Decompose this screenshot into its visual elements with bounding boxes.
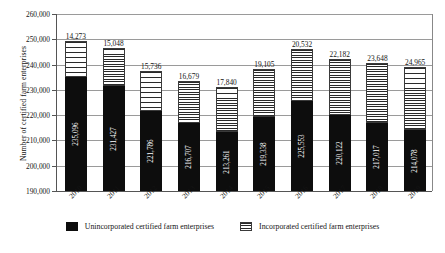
bar-segment-incorporated[interactable]: 15,048 — [103, 48, 125, 86]
legend-label-unincorporated: Unincorporated certified farm enterprise… — [85, 222, 214, 231]
legend-item-unincorporated[interactable]: Unincorporated certified farm enterprise… — [66, 222, 214, 231]
bar-group[interactable]: 23,648217,017 — [366, 63, 388, 191]
legend-label-incorporated: Incorporated certified farm enterprises — [259, 222, 379, 231]
y-tick-label: 210,000 — [26, 136, 57, 145]
bar-group[interactable]: 20,532225,553 — [291, 49, 313, 191]
bar-group[interactable]: 19,105219,338 — [253, 69, 275, 191]
bar-value-label-unincorporated: 217,017 — [373, 145, 381, 168]
bar-segment-unincorporated[interactable]: 231,427 — [103, 86, 125, 191]
bar-segment-unincorporated[interactable]: 221,786 — [140, 111, 162, 191]
bar-segment-unincorporated[interactable]: 225,553 — [291, 101, 313, 191]
bar-segment-unincorporated[interactable]: 219,338 — [253, 117, 275, 191]
y-tick-label: 260,000 — [26, 10, 57, 19]
hatched-square-icon — [240, 222, 252, 231]
bar-segment-unincorporated[interactable]: 216,707 — [178, 123, 200, 191]
bar-value-label-incorporated: 23,648 — [367, 54, 387, 63]
bar-value-label-incorporated: 20,532 — [292, 40, 312, 49]
y-tick-label: 190,000 — [26, 187, 57, 196]
bar-value-label-incorporated: 17,840 — [216, 78, 236, 87]
y-tick-label: 240,000 — [26, 60, 57, 69]
bar-value-label-unincorporated: 216,707 — [185, 146, 193, 169]
bar-group[interactable]: 16,679216,707 — [178, 81, 200, 191]
legend-item-incorporated[interactable]: Incorporated certified farm enterprises — [240, 222, 379, 231]
bar-value-label-incorporated: 19,105 — [254, 60, 274, 69]
bar-group[interactable]: 15,736221,786 — [140, 71, 162, 191]
bar-segment-incorporated[interactable]: 16,679 — [178, 81, 200, 123]
bar-value-label-unincorporated: 213,261 — [223, 150, 231, 173]
bar-value-label-incorporated: 15,048 — [103, 39, 123, 48]
bar-group[interactable]: 14,273235,096 — [65, 41, 87, 191]
y-tick-label: 250,000 — [26, 35, 57, 44]
bar-value-label-incorporated: 24,965 — [405, 58, 425, 67]
bar-series-layer: 14,273235,09615,048231,42715,736221,7861… — [57, 14, 432, 191]
bar-value-label-incorporated: 16,679 — [179, 72, 199, 81]
bar-value-label-unincorporated: 214,078 — [411, 149, 419, 172]
bar-value-label-unincorporated: 220,122 — [336, 141, 344, 164]
bar-value-label-incorporated: 15,736 — [141, 62, 161, 71]
bar-segment-incorporated[interactable]: 17,840 — [216, 87, 238, 132]
bar-group[interactable]: 24,965214,078 — [404, 67, 426, 191]
bar-segment-incorporated[interactable]: 15,736 — [140, 71, 162, 111]
bar-group[interactable]: 22,182220,122 — [329, 59, 351, 191]
bar-group[interactable]: 17,840213,261 — [216, 87, 238, 191]
y-tick-label: 220,000 — [26, 111, 57, 120]
stacked-bar-chart-figure: Number of certified farm enterprises 260… — [0, 0, 445, 253]
bar-segment-unincorporated[interactable]: 235,096 — [65, 77, 87, 191]
bar-value-label-incorporated: 22,182 — [330, 50, 350, 59]
y-tick-label: 200,000 — [26, 161, 57, 170]
bar-segment-incorporated[interactable]: 14,273 — [65, 41, 87, 77]
bar-value-label-unincorporated: 221,786 — [147, 139, 155, 162]
bar-segment-unincorporated[interactable]: 214,078 — [404, 130, 426, 191]
bar-segment-incorporated[interactable]: 20,532 — [291, 49, 313, 101]
bar-segment-incorporated[interactable]: 22,182 — [329, 59, 351, 115]
bar-segment-incorporated[interactable]: 19,105 — [253, 69, 275, 117]
plot-area: 260,000250,000240,000230,000220,000210,0… — [56, 14, 433, 191]
y-tick-label: 230,000 — [26, 85, 57, 94]
bar-value-label-unincorporated: 219,338 — [260, 142, 268, 165]
bar-value-label-unincorporated: 231,427 — [110, 127, 118, 150]
black-square-icon — [66, 222, 78, 231]
bar-value-label-unincorporated: 225,553 — [298, 134, 306, 157]
bar-segment-unincorporated[interactable]: 220,122 — [329, 115, 351, 191]
chart-legend: Unincorporated certified farm enterprise… — [0, 222, 445, 231]
bar-value-label-incorporated: 14,273 — [66, 32, 86, 41]
bar-value-label-unincorporated: 235,096 — [72, 122, 80, 145]
bar-segment-incorporated[interactable]: 24,965 — [404, 67, 426, 130]
bar-segment-incorporated[interactable]: 23,648 — [366, 63, 388, 123]
bar-group[interactable]: 15,048231,427 — [103, 48, 125, 191]
bar-segment-unincorporated[interactable]: 217,017 — [366, 123, 388, 191]
bar-segment-unincorporated[interactable]: 213,261 — [216, 132, 238, 191]
